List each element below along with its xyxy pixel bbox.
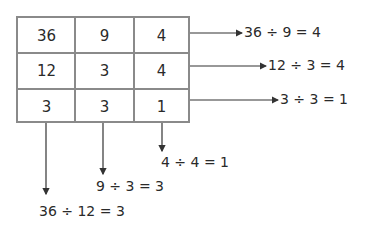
column-equation: 9 ÷ 3 = 3 (96, 178, 164, 194)
column-equation: 36 ÷ 12 = 3 (39, 203, 125, 219)
column-equation: 4 ÷ 4 = 1 (161, 154, 229, 170)
row-equation: 36 ÷ 9 = 4 (244, 24, 321, 40)
row-equation: 3 ÷ 3 = 1 (280, 91, 348, 107)
row-equation: 12 ÷ 3 = 4 (268, 57, 345, 73)
